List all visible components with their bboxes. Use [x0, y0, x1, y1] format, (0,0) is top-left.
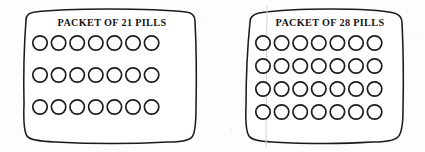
pill-circle[interactable]	[144, 100, 158, 114]
packet-28-caption: PACKET OF 28 PILLS	[276, 17, 385, 28]
pill-circle[interactable]	[330, 82, 344, 96]
pill-circle[interactable]	[367, 82, 381, 96]
pill-circle[interactable]	[349, 59, 363, 73]
pill-circle[interactable]	[312, 82, 326, 96]
pill-circle[interactable]	[70, 100, 84, 114]
pill-circle[interactable]	[33, 100, 47, 114]
packet-21-caption: PACKET OF 21 PILLS	[58, 17, 167, 28]
pill-circle[interactable]	[70, 36, 84, 50]
pill-circle[interactable]	[274, 36, 288, 50]
pill-circle[interactable]	[367, 105, 381, 119]
pill-circle[interactable]	[256, 59, 270, 73]
pill-circle[interactable]	[312, 59, 326, 73]
pill-circle[interactable]	[144, 68, 158, 82]
pill-circle[interactable]	[126, 68, 140, 82]
pill-circle[interactable]	[312, 36, 326, 50]
pill-circle[interactable]	[51, 68, 65, 82]
pill-packet-figure: PACKET OF 21 PILLS	[0, 0, 425, 152]
pill-circle[interactable]	[107, 68, 121, 82]
pill-circle[interactable]	[70, 68, 84, 82]
pill-circle[interactable]	[51, 36, 65, 50]
pill-circle[interactable]	[126, 100, 140, 114]
packet-28-outline	[246, 9, 404, 144]
pill-circle[interactable]	[256, 82, 270, 96]
pill-circle[interactable]	[349, 36, 363, 50]
pill-circle[interactable]	[330, 36, 344, 50]
pill-circle[interactable]	[293, 36, 307, 50]
pill-circle[interactable]	[89, 68, 103, 82]
pill-circle[interactable]	[293, 105, 307, 119]
pill-circle[interactable]	[274, 82, 288, 96]
pill-circle[interactable]	[51, 100, 65, 114]
packet-28-pills-group[interactable]: PACKET OF 28 PILLS	[246, 6, 404, 148]
pill-circle[interactable]	[312, 105, 326, 119]
pill-circle[interactable]	[293, 82, 307, 96]
pill-circle[interactable]	[349, 82, 363, 96]
pill-circle[interactable]	[349, 105, 363, 119]
pill-circle[interactable]	[126, 36, 140, 50]
figure-canvas: PACKET OF 21 PILLS	[0, 0, 425, 152]
pill-circle[interactable]	[330, 59, 344, 73]
pill-circle[interactable]	[33, 36, 47, 50]
pill-circle[interactable]	[330, 105, 344, 119]
pill-circle[interactable]	[256, 105, 270, 119]
pill-circle[interactable]	[107, 100, 121, 114]
pill-circle[interactable]	[107, 36, 121, 50]
pill-circle[interactable]	[367, 36, 381, 50]
pill-circle[interactable]	[256, 36, 270, 50]
pill-circle[interactable]	[144, 36, 158, 50]
pill-circle[interactable]	[89, 100, 103, 114]
pill-circle[interactable]	[367, 59, 381, 73]
pill-circle[interactable]	[274, 105, 288, 119]
packet-21-pills-group[interactable]: PACKET OF 21 PILLS	[24, 9, 197, 144]
pill-circle[interactable]	[89, 36, 103, 50]
pill-circle[interactable]	[293, 59, 307, 73]
pill-circle[interactable]	[274, 59, 288, 73]
pill-circle[interactable]	[33, 68, 47, 82]
